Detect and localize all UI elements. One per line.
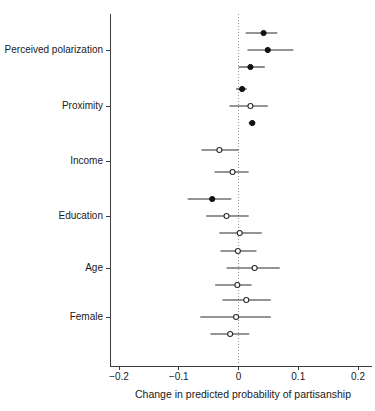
estimate-point-open <box>252 266 257 271</box>
x-axis-tick-label: −0.2 <box>109 371 129 382</box>
estimate-point-open <box>237 231 242 236</box>
estimate-point-open <box>230 170 235 175</box>
estimate-point-open <box>235 249 240 254</box>
y-axis-tick-label: Education <box>59 210 103 221</box>
x-axis-tick-label: 0.2 <box>351 371 365 382</box>
estimate-point-filled <box>250 120 255 125</box>
estimate-point-open <box>228 332 233 337</box>
estimate-point-filled <box>210 196 215 201</box>
estimate-point-open <box>224 214 229 219</box>
x-axis-tick-label: 0.1 <box>291 371 305 382</box>
plot-area: Perceived polarizationProximityIncomeEdu… <box>0 0 375 411</box>
x-axis-tick-labels: −0.2−0.100.10.2 <box>109 371 365 382</box>
estimate-point-filled <box>261 30 266 35</box>
estimate-point-open <box>234 315 239 320</box>
data-series-group <box>188 30 294 336</box>
y-axis-tick-label: Age <box>85 262 103 273</box>
estimate-point-open <box>235 283 240 288</box>
estimate-point-open <box>217 148 222 153</box>
x-axis-tick-label: −0.1 <box>169 371 189 382</box>
y-axis-tick-label: Female <box>70 311 104 322</box>
x-axis-title: Change in predicted probability of parti… <box>135 388 351 400</box>
y-axis-tick-labels: Perceived polarizationProximityIncomeEdu… <box>5 44 104 322</box>
y-axis-tick-label: Proximity <box>62 100 103 111</box>
estimate-point-open <box>248 104 253 109</box>
y-axis-tick-label: Income <box>70 155 103 166</box>
x-axis-tick-label: 0 <box>236 371 242 382</box>
estimate-point-filled <box>248 64 253 69</box>
coefficient-plot: Perceived polarizationProximityIncomeEdu… <box>0 0 375 411</box>
estimate-point-filled <box>239 86 244 91</box>
y-axis-tick-label: Perceived polarization <box>5 44 103 55</box>
estimate-point-open <box>244 298 249 303</box>
estimate-point-filled <box>265 47 270 52</box>
